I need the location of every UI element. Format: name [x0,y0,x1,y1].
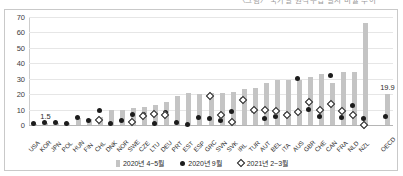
dot-mark [328,73,333,78]
clipped-caption-strip: 〈그림〉 국가별 원격수업 실시 비율 추이 [0,0,403,9]
bar-mark [363,23,368,125]
dot-mark [152,121,157,126]
plot-area: 1.519.9 [29,17,393,125]
legend-item-diamond[interactable]: 2021년 2~3월 [238,158,288,168]
y-axis-tick-labels: 010203040506070 [7,17,25,125]
chart-screenshot: 〈그림〉 국가별 원격수업 실시 비율 추이 010203040506070 1… [0,0,403,176]
y-tick-label: 60 [7,28,25,37]
dot-mark [207,116,212,121]
y-tick-label: 10 [7,105,25,114]
dot-mark [97,108,102,113]
black-dot-icon [180,161,185,166]
y-tick-label: 40 [7,59,25,68]
bar-mark [385,94,390,125]
dot-mark [86,118,91,123]
legend-label-diamond: 2021년 2~3월 [247,158,288,168]
legend-label-dot: 2020년 9월 [188,158,221,168]
x-tick-label: OECD [380,135,398,153]
chart-legend: 2020년 4~5월 2020년 9월 2021년 2~3월 [5,156,399,170]
legend-label-bar: 2020년 4~5월 [123,158,164,168]
bar-mark [186,93,191,125]
chart-column [380,17,394,125]
dot-mark [53,120,58,125]
bar-mark [297,80,302,125]
data-point-label: 1.5 [40,112,50,121]
dot-mark [108,121,113,126]
y-tick-label: 20 [7,90,25,99]
dot-mark [75,115,80,120]
y-tick-label: 30 [7,74,25,83]
bar-mark [197,94,202,125]
dot-mark [64,121,69,126]
dot-mark [42,120,47,125]
dot-mark [130,112,135,117]
y-tick-label: 70 [7,13,25,22]
dot-mark [262,116,267,121]
legend-item-bar[interactable]: 2020년 4~5월 [116,158,164,168]
x-tick-label: NZL [357,140,370,153]
legend-item-dot[interactable]: 2020년 9월 [180,158,221,168]
chart-frame: 010203040506070 1.519.9 USAKORJPNPOLHUNF… [4,9,398,171]
y-tick-label: 0 [7,121,25,130]
gray-bar-icon [116,160,120,167]
caption-text: 〈그림〉 국가별 원격수업 실시 비율 추이 [238,0,376,5]
y-tick-label: 50 [7,43,25,52]
bar-mark [242,89,247,125]
x-axis-tick-labels: USAKORJPNPOLHUNFINCHLDNKNORSWECZELTUDEUP… [29,127,393,153]
data-point-label: 19.9 [380,83,395,92]
gridline-0 [29,125,393,126]
open-diamond-icon [236,159,244,167]
dot-mark [31,121,36,126]
